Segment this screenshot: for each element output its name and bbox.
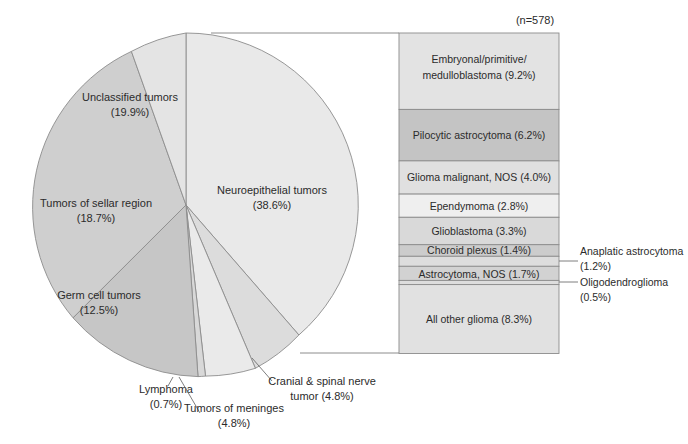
pie-label-tumors-of-sellar-region-line2: (18.7%) <box>77 212 116 224</box>
bar-label-ependymoma: Ependymoma (2.8%) <box>430 200 529 212</box>
pie-label-neuroepithelial-tumors-line2: (38.6%) <box>253 199 292 211</box>
breakout-side-annotations: Anaplatic astrocytoma (1.2%) Oligodendro… <box>559 245 683 303</box>
bar-segment-anaplatic-astrocytoma[interactable] <box>399 256 559 266</box>
bar-label-pilocytic-astrocytoma: Pilocytic astrocytoma (6.2%) <box>413 129 545 141</box>
bar-label-choroid-plexus: Choroid plexus (1.4%) <box>427 244 531 256</box>
pie-label-cranial-spinal-nerve-tumor-line1: Cranial & spinal nerve <box>268 375 376 387</box>
side-label-anaplatic-astrocytoma-line2: (1.2%) <box>580 260 611 272</box>
bar-label-astrocytoma-nos: Astrocytoma, NOS (1.7%) <box>419 268 540 280</box>
pie-label-tumors-of-meninges-line2: (4.8%) <box>218 417 250 429</box>
bar-label-embryonal-primitive-medulloblastoma-line2: medulloblastoma (9.2%) <box>422 69 535 81</box>
bar-label-glioblastoma: Glioblastoma (3.3%) <box>431 225 526 237</box>
pie-label-lymphoma-line2: (0.7%) <box>150 398 182 410</box>
pie-label-cranial-spinal-nerve-tumor-line2: tumor (4.8%) <box>290 390 354 402</box>
pie-label-unclassified-tumors-line1: Unclassified tumors <box>82 91 178 103</box>
bar-label-all-other-glioma: All other glioma (8.3%) <box>426 313 532 325</box>
breakout-stacked-bar: Embryonal/primitive/ medulloblastoma (9.… <box>399 33 559 354</box>
pie-label-unclassified-tumors-line2: (19.9%) <box>111 106 150 118</box>
pie-label-tumors-of-sellar-region-line1: Tumors of sellar region <box>40 197 152 209</box>
pie-label-tumors-of-meninges-line1: Tumors of meninges <box>184 402 284 414</box>
bar-label-glioma-malignant-nos: Glioma malignant, NOS (4.0%) <box>407 171 551 183</box>
sample-size-label: (n=578) <box>516 14 554 26</box>
pie-label-neuroepithelial-tumors-line1: Neuroepithelial tumors <box>217 184 328 196</box>
side-label-oligodendroglioma-line1: Oligodendroglioma <box>580 276 668 288</box>
pie-chart-figure: (n=578) Neuroepithelial tumors (38.6%) U… <box>0 0 688 444</box>
pie-label-germ-cell-tumors-line2: (12.5%) <box>80 304 119 316</box>
side-label-anaplatic-astrocytoma-line1: Anaplatic astrocytoma <box>580 245 683 257</box>
pie-label-germ-cell-tumors-line1: Germ cell tumors <box>57 289 141 301</box>
side-label-oligodendroglioma-line2: (0.5%) <box>580 291 611 303</box>
bar-segment-oligodendroglioma[interactable] <box>399 280 559 284</box>
bar-label-embryonal-primitive-medulloblastoma-line1: Embryonal/primitive/ <box>431 53 526 65</box>
